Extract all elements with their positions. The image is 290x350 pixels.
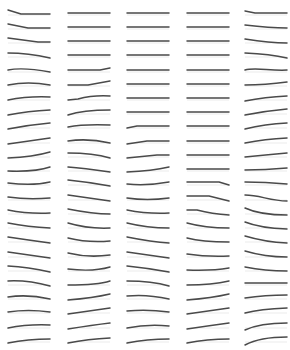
curve-stroke [185,176,231,190]
curve-stroke [66,290,112,304]
curve-stroke [125,63,171,77]
curve-stroke [66,63,112,77]
curve-stroke [185,191,231,205]
curve-stroke [185,276,231,290]
curve-stroke [125,162,171,176]
curve-stroke [6,105,52,119]
curve-stroke [6,48,52,62]
curve-stroke [125,34,171,48]
curve-stroke [125,248,171,262]
curve-stroke [185,6,231,20]
curve-stroke [66,248,112,262]
curve-stroke [66,233,112,247]
curve-stroke [6,290,52,304]
curve-stroke [243,262,289,276]
curve-stroke [66,6,112,20]
curve-stroke [66,319,112,333]
curve-stroke [6,63,52,77]
curve-stroke [6,304,52,318]
curve-stroke [125,105,171,119]
curve-stroke [125,134,171,148]
curve-stroke [66,119,112,133]
curve-stroke [125,304,171,318]
curve-stroke [185,91,231,105]
curve-stroke [66,333,112,347]
curve-stroke [125,48,171,62]
curve-stroke [185,63,231,77]
curve-stroke [243,91,289,105]
curve-stroke [125,191,171,205]
curve-stroke [66,162,112,176]
curve-stroke [66,176,112,190]
curve-stroke [243,319,289,333]
curve-stroke [6,262,52,276]
curve-stroke [243,333,289,347]
curve-stroke [185,304,231,318]
curve-stroke [243,290,289,304]
curve-stroke [185,77,231,91]
curve-stroke [243,119,289,133]
curve-stroke [66,77,112,91]
curve-stroke [66,304,112,318]
curve-stroke [66,205,112,219]
curve-stroke [185,262,231,276]
curve-stroke [243,48,289,62]
curve-stroke [66,34,112,48]
curve-stroke [6,205,52,219]
curve-stroke [66,48,112,62]
curve-stroke [243,205,289,219]
curve-stroke [243,105,289,119]
curve-stroke [125,319,171,333]
curve-stroke [6,20,52,34]
curve-stroke [125,6,171,20]
curve-stroke [125,77,171,91]
curve-stroke [6,91,52,105]
curve-stroke [243,77,289,91]
curve-stroke [6,191,52,205]
curve-stroke [185,162,231,176]
curve-stroke [66,191,112,205]
curve-stroke [185,233,231,247]
curve-stroke [125,148,171,162]
curve-stroke [185,205,231,219]
curve-stroke [125,176,171,190]
curve-stroke-grid [0,0,290,350]
curve-stroke [6,233,52,247]
curve-stroke [243,248,289,262]
curve-stroke [185,34,231,48]
curve-stroke [185,219,231,233]
curve-stroke [125,276,171,290]
curve-stroke [125,91,171,105]
curve-stroke [243,63,289,77]
curve-stroke [185,333,231,347]
curve-stroke [6,276,52,290]
curve-stroke [125,290,171,304]
curve-stroke [125,119,171,133]
curve-stroke [6,77,52,91]
curve-stroke [125,333,171,347]
curve-stroke [6,219,52,233]
curve-stroke [243,176,289,190]
curve-stroke [243,233,289,247]
curve-stroke [243,6,289,20]
curve-stroke [6,6,52,20]
curve-stroke [185,134,231,148]
curve-stroke [243,148,289,162]
curve-stroke [243,134,289,148]
curve-stroke [185,105,231,119]
curve-stroke [185,290,231,304]
curve-stroke [185,119,231,133]
curve-stroke [125,233,171,247]
curve-stroke [185,148,231,162]
curve-stroke [66,148,112,162]
curve-stroke [125,20,171,34]
curve-stroke [185,248,231,262]
curve-stroke [243,20,289,34]
curve-stroke [6,162,52,176]
curve-stroke [243,276,289,290]
curve-stroke [6,119,52,133]
curve-stroke [6,34,52,48]
curve-stroke [243,219,289,233]
curve-stroke [6,333,52,347]
curve-stroke [243,162,289,176]
